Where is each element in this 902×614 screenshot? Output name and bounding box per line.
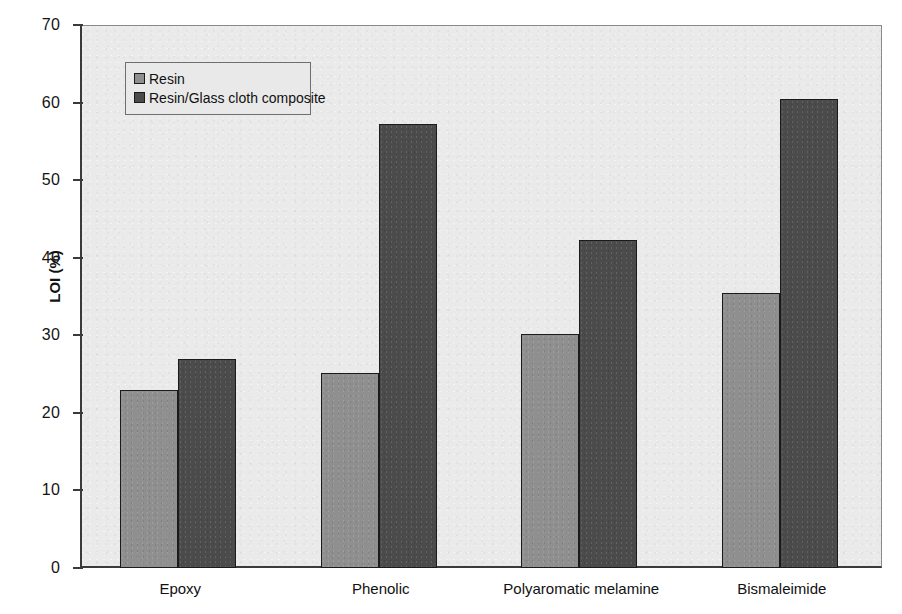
x-axis-category-label: Epoxy — [159, 580, 201, 597]
legend-item: Resin/Glass cloth composite — [134, 88, 302, 107]
legend-item-label: Resin/Glass cloth composite — [149, 91, 326, 105]
x-axis-category-label: Polyaromatic melamine — [503, 580, 659, 597]
x-axis-category-label: Phenolic — [352, 580, 410, 597]
legend-item-label: Resin — [149, 72, 185, 86]
bar-chart: 010203040506070 LOI (%) EpoxyPhenolicPol… — [0, 0, 902, 614]
legend-swatch-icon — [134, 92, 145, 103]
legend-item: Resin — [134, 69, 302, 88]
legend-swatch-icon — [134, 73, 145, 84]
legend: ResinResin/Glass cloth composite — [125, 62, 311, 115]
x-axis-category-label: Bismaleimide — [737, 580, 826, 597]
